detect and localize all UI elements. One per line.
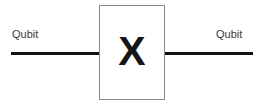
input-qubit-label: Qubit xyxy=(12,29,38,40)
input-qubit-wire xyxy=(11,52,100,55)
output-qubit-wire xyxy=(164,52,253,55)
quantum-circuit-diagram: Qubit Qubit X xyxy=(0,0,262,109)
gate-symbol-label: X xyxy=(118,31,145,72)
output-qubit-label: Qubit xyxy=(216,29,242,40)
pauli-x-gate-box: X xyxy=(99,5,165,100)
